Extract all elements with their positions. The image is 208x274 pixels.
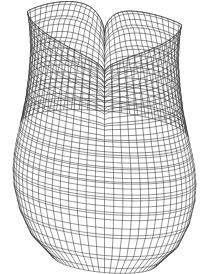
wireframe-surface-plot: Wireframe surface plot of a vase-like su…: [0, 0, 208, 274]
wireframe-figure: Wireframe surface plot of a vase-like su…: [0, 0, 208, 274]
